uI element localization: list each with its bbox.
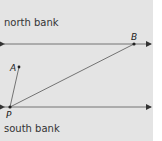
point-P (8, 105, 11, 108)
river-diagram: north bank B A P south bank (0, 0, 162, 141)
label-B: B (131, 32, 137, 42)
label-A: A (9, 63, 16, 73)
segment-PB (10, 44, 134, 107)
south-bank-label: south bank (4, 123, 60, 134)
north-bank-label: north bank (4, 17, 59, 28)
segment-PA (10, 67, 19, 107)
point-B (132, 42, 135, 45)
point-A (18, 66, 21, 69)
label-P: P (6, 110, 12, 120)
